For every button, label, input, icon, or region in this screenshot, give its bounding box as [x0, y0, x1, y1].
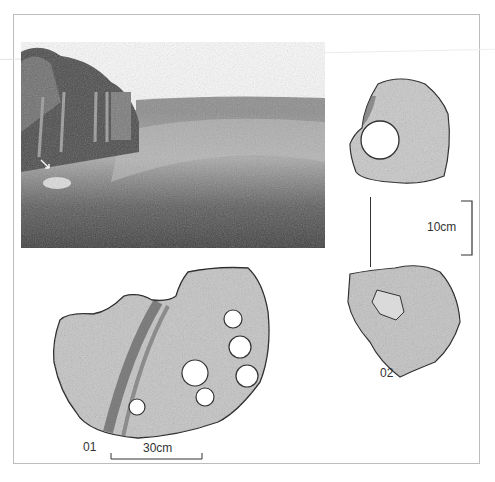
scale-bar-10cm [455, 200, 475, 257]
landscape-photo [21, 42, 325, 248]
scale-label-30cm: 30cm [143, 441, 172, 455]
artifact-01-drawing [48, 262, 274, 440]
view-connector-line [370, 197, 371, 267]
artifact-label-01: 01 [83, 440, 96, 454]
artifact-02-view-a [340, 76, 470, 196]
artifact-02-view-b [340, 262, 470, 382]
artifact-label-02: 02 [380, 366, 393, 380]
scale-label-10cm: 10cm [427, 220, 456, 234]
